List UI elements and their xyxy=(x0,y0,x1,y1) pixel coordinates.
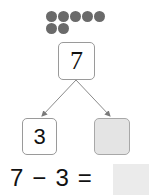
equation-right-operand: 3 xyxy=(55,164,68,192)
dot xyxy=(94,11,105,22)
dot xyxy=(82,11,93,22)
equation-operator: − xyxy=(32,164,46,192)
dot xyxy=(58,23,69,34)
dot xyxy=(58,11,69,22)
arrow-left xyxy=(42,80,76,116)
whole-number-box: 7 xyxy=(58,42,95,80)
equation-left-operand: 7 xyxy=(10,164,23,192)
unknown-part-box[interactable] xyxy=(94,118,130,155)
whole-number: 7 xyxy=(70,46,83,76)
known-part-box: 3 xyxy=(22,118,57,155)
dot xyxy=(46,11,57,22)
arrow-right xyxy=(76,80,110,116)
answer-box[interactable] xyxy=(113,164,149,195)
subtraction-equation: 7 − 3 = xyxy=(10,163,101,193)
equation-equals: = xyxy=(78,164,92,192)
dot xyxy=(70,11,81,22)
dot xyxy=(46,23,57,34)
known-part-number: 3 xyxy=(33,124,45,150)
